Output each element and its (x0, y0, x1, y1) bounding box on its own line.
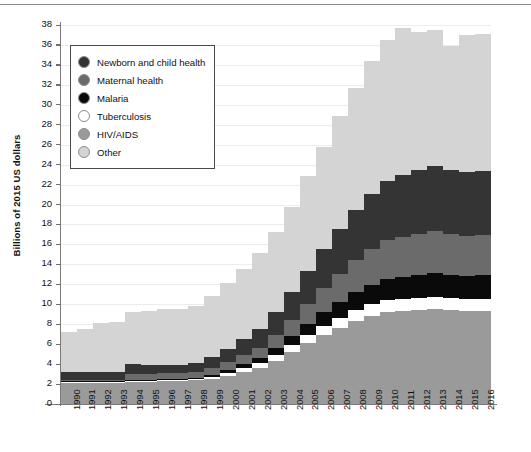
bar-segment-newborn-and-child-health (475, 171, 491, 236)
y-tick-label: 38 (41, 19, 52, 29)
x-tick-label: 1990 (73, 389, 82, 410)
y-tick-label: 36 (41, 39, 52, 49)
bar-segment-maternal-health (157, 373, 173, 379)
y-tick-label: 18 (41, 218, 52, 228)
y-tick-mark (56, 204, 61, 205)
bar-segment-maternal-health (364, 249, 380, 285)
bar-segment-newborn-and-child-health (316, 249, 332, 288)
y-tick-label: 14 (41, 258, 52, 268)
x-tick-label: 2004 (296, 389, 305, 410)
y-tick-label: 0 (47, 398, 52, 408)
bar-segment-tuberculosis (252, 363, 268, 368)
y-tick-label: 30 (41, 99, 52, 109)
bar-segment-maternal-health (348, 260, 364, 292)
bar-segment-other (364, 61, 380, 194)
bar-segment-newborn-and-child-health (380, 181, 396, 241)
x-tick-label: 2010 (391, 389, 400, 410)
bar-segment-other (475, 34, 491, 171)
bar-2014 (443, 25, 459, 404)
bar-segment-tuberculosis (364, 304, 380, 316)
figure-top-rule (0, 4, 531, 5)
y-tick-mark (56, 404, 61, 405)
bar-segment-newborn-and-child-health (459, 172, 475, 237)
bar-segment-newborn-and-child-health (364, 194, 380, 250)
bar-segment-other (220, 283, 236, 349)
bar-segment-other (204, 296, 220, 357)
bar-2005 (300, 25, 316, 404)
bar-segment-maternal-health (109, 380, 125, 381)
bar-segment-maternal-health (141, 374, 157, 380)
bar-segment-other (109, 322, 125, 372)
legend-swatch-icon (78, 110, 90, 122)
bar-segment-malaria (300, 324, 316, 335)
bar-segment-maternal-health (77, 380, 93, 381)
bar-2013 (427, 25, 443, 404)
bar-segment-other (61, 332, 77, 372)
bar-segment-tuberculosis (427, 297, 443, 309)
legend-swatch-icon (78, 128, 90, 140)
legend-item-tuberculosis[interactable]: Tuberculosis (78, 107, 206, 125)
bar-2015 (459, 25, 475, 404)
bar-segment-maternal-health (427, 231, 443, 273)
bar-2002 (252, 25, 268, 404)
bar-segment-maternal-health (316, 288, 332, 312)
y-tick-mark (56, 104, 61, 105)
bar-segment-malaria (332, 302, 348, 318)
bar-segment-tuberculosis (443, 298, 459, 310)
bar-segment-maternal-health (204, 368, 220, 375)
x-tick-label: 2002 (264, 389, 273, 410)
bar-2010 (380, 25, 396, 404)
bar-2000 (220, 25, 236, 404)
bar-segment-tuberculosis (395, 299, 411, 311)
bar-segment-tuberculosis (316, 326, 332, 335)
bar-segment-other (252, 253, 268, 329)
x-tick-label: 2001 (248, 389, 257, 410)
legend-item-maternal-health[interactable]: Maternal health (78, 71, 206, 89)
y-tick-mark (56, 224, 61, 225)
legend-item-label: HIV/AIDS (97, 129, 138, 140)
legend-item-label: Other (97, 147, 121, 158)
bar-segment-newborn-and-child-health (427, 166, 443, 232)
bar-segment-maternal-health (236, 355, 252, 364)
x-tick-label: 1994 (136, 389, 145, 410)
bar-segment-malaria (364, 285, 380, 304)
bar-segment-maternal-health (411, 234, 427, 275)
legend-item-label: Maternal health (97, 75, 163, 86)
y-tick-label: 22 (41, 179, 52, 189)
bar-segment-other (93, 323, 109, 372)
y-tick-mark (56, 324, 61, 325)
y-tick-label: 26 (41, 139, 52, 149)
y-tick-label: 12 (41, 278, 52, 288)
y-tick-mark (56, 384, 61, 385)
bar-segment-tuberculosis (300, 335, 316, 343)
y-tick-mark (56, 184, 61, 185)
y-tick-mark (56, 304, 61, 305)
bar-segment-other (172, 309, 188, 365)
bar-segment-newborn-and-child-health (236, 339, 252, 355)
bar-segment-newborn-and-child-health (109, 372, 125, 380)
bar-segment-malaria (252, 358, 268, 363)
y-tick-mark (56, 44, 61, 45)
x-tick-label: 1993 (120, 389, 129, 410)
bar-segment-tuberculosis (459, 299, 475, 311)
bar-segment-malaria (475, 275, 491, 299)
bar-segment-malaria (268, 348, 284, 355)
bar-segment-tuberculosis (475, 299, 491, 311)
bar-segment-tuberculosis (380, 300, 396, 312)
bar-segment-other (236, 269, 252, 339)
legend-item-other[interactable]: Other (78, 143, 206, 161)
legend-item-hiv-aids[interactable]: HIV/AIDS (78, 125, 206, 143)
legend-item-label: Newborn and child health (97, 57, 205, 68)
y-tick-label: 20 (41, 199, 52, 209)
legend-item-malaria[interactable]: Malaria (78, 89, 206, 107)
chart-legend: Newborn and child healthMaternal healthM… (70, 45, 215, 169)
bar-segment-other (316, 147, 332, 250)
bar-segment-malaria (395, 277, 411, 299)
bar-segment-newborn-and-child-health (300, 271, 316, 304)
y-tick-mark (56, 84, 61, 85)
bar-segment-malaria (204, 375, 220, 377)
bar-segment-maternal-health (443, 234, 459, 275)
bar-segment-newborn-and-child-health (172, 365, 188, 373)
bar-segment-newborn-and-child-health (252, 329, 268, 348)
legend-item-newborn-and-child-health[interactable]: Newborn and child health (78, 53, 206, 71)
